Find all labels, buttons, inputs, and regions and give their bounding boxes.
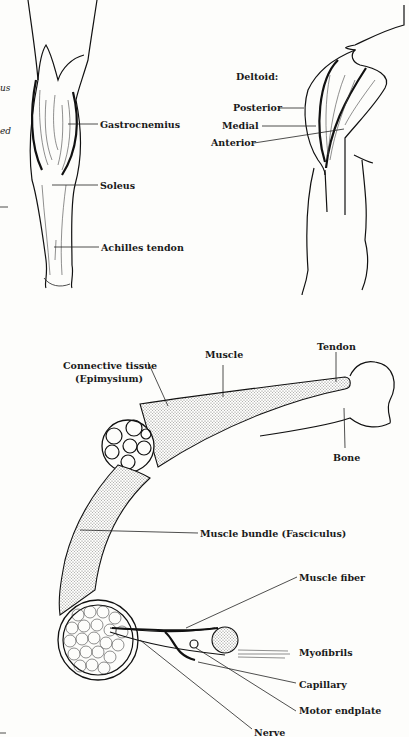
label-posterior: Posterior bbox=[233, 102, 283, 113]
label-gastrocnemius: Gastrocnemius bbox=[100, 119, 180, 130]
label-fasciculus: Muscle bundle (Fasciculus) bbox=[200, 528, 346, 539]
deltoid-diagram: Deltoid: Posterior Medial Anterior bbox=[210, 5, 404, 295]
label-capillary: Capillary bbox=[299, 679, 347, 690]
bone-leader bbox=[344, 408, 345, 448]
label-soleus: Soleus bbox=[100, 180, 135, 191]
anatomy-figure: us ed Gastrocnemius Soleus Achilles tend… bbox=[0, 0, 409, 737]
deltoid-title: Deltoid: bbox=[236, 71, 278, 82]
label-achilles-tendon: Achilles tendon bbox=[100, 242, 184, 253]
label-motor-endplate: Motor endplate bbox=[299, 705, 381, 716]
margin-fragment-1: us bbox=[0, 83, 11, 93]
label-bone: Bone bbox=[333, 452, 360, 463]
label-medial: Medial bbox=[222, 120, 259, 131]
muscle-cross-section bbox=[102, 420, 154, 472]
label-myofibrils: Myofibrils bbox=[299, 647, 353, 658]
arm-outline bbox=[302, 5, 404, 295]
label-muscle: Muscle bbox=[205, 349, 243, 360]
label-muscle-fiber: Muscle fiber bbox=[299, 572, 366, 583]
muscle-structure-diagram: Connective tissue (Epimysium) Muscle Ten… bbox=[58, 341, 394, 737]
muscle-belly bbox=[140, 377, 350, 467]
label-epimysium: (Epimysium) bbox=[75, 373, 143, 384]
left-margin-fragments: us ed bbox=[0, 83, 11, 207]
label-nerve: Nerve bbox=[254, 727, 285, 737]
nerve-leader bbox=[140, 640, 252, 729]
margin-fragment-2: ed bbox=[0, 126, 11, 136]
label-tendon: Tendon bbox=[317, 341, 356, 352]
label-connective-tissue: Connective tissue bbox=[63, 360, 157, 371]
fasciculus-cross-section bbox=[58, 600, 138, 680]
calf-leg-outline bbox=[28, 0, 97, 288]
label-anterior: Anterior bbox=[210, 137, 257, 148]
calf-diagram: Gastrocnemius Soleus Achilles tendon bbox=[28, 0, 184, 288]
fasciculus-shape bbox=[59, 465, 150, 615]
muscle-fiber-leader bbox=[186, 577, 297, 628]
